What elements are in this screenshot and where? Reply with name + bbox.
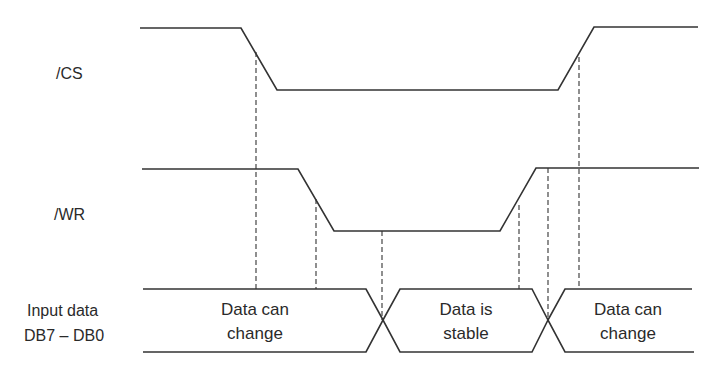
region-3-line1: Data can bbox=[594, 300, 662, 319]
timing-diagram: /CS /WR Input data DB7 – DB0 Data can ch… bbox=[0, 0, 719, 378]
region-1-line1: Data can bbox=[221, 300, 289, 319]
wr-signal-label: /WR bbox=[54, 206, 85, 223]
wr-waveform bbox=[142, 168, 699, 231]
region-2-line1: Data is bbox=[440, 300, 493, 319]
data-bus-label-line1: Input data bbox=[27, 302, 98, 319]
cs-waveform bbox=[140, 27, 698, 90]
data-bus-label-line2: DB7 – DB0 bbox=[24, 327, 104, 344]
cs-signal-label: /CS bbox=[56, 65, 83, 82]
region-1-line2: change bbox=[227, 324, 283, 343]
region-2-line2: stable bbox=[443, 324, 488, 343]
region-3-line2: change bbox=[600, 324, 656, 343]
